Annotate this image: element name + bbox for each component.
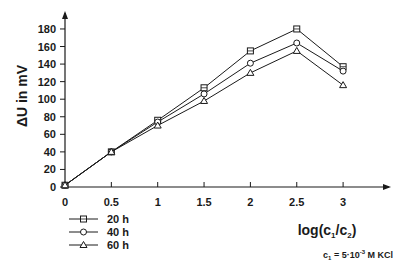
- x-tick-label: 1.5: [196, 196, 211, 208]
- y-tick-label: 180: [38, 23, 56, 35]
- x-tick-label: 2.5: [289, 196, 304, 208]
- y-tick-label: 160: [38, 41, 56, 53]
- legend-label: 60 h: [107, 239, 129, 251]
- triangle-marker-icon: [293, 47, 300, 53]
- y-tick-label: 20: [44, 163, 56, 175]
- legend-item: 40 h: [69, 226, 129, 238]
- y-tick-label: 140: [38, 58, 56, 70]
- circle-marker-icon: [294, 40, 300, 46]
- y-tick-label: 0: [50, 181, 56, 193]
- legend: 20 h40 h60 h: [69, 213, 129, 251]
- x-axis-title: log(c1/c2): [298, 222, 357, 240]
- triangle-marker-icon: [247, 69, 254, 75]
- legend-item: 60 h: [69, 239, 129, 251]
- series-line: [65, 43, 343, 185]
- y-tick-label: 100: [38, 93, 56, 105]
- series-60h: [62, 47, 347, 187]
- y-axis-title: ΔU in mV: [14, 64, 30, 127]
- x-tick-label: 0: [62, 196, 68, 208]
- series-20h: [62, 26, 346, 188]
- legend-label: 40 h: [107, 226, 129, 238]
- x-tick-label: 1: [155, 196, 161, 208]
- concentration-note: c1 = 5·10-3 M KCl: [323, 249, 393, 261]
- x-tick-label: 3: [340, 196, 346, 208]
- y-tick-label: 80: [44, 111, 56, 123]
- series-line: [65, 29, 343, 185]
- x-tick-label: 0.5: [104, 196, 119, 208]
- data-series: [62, 26, 347, 188]
- axes: 02040608010012014016018000.511.522.53: [38, 11, 391, 208]
- chart: 02040608010012014016018000.511.522.53 20…: [0, 0, 403, 273]
- legend-label: 20 h: [107, 213, 129, 225]
- y-tick-label: 120: [38, 76, 56, 88]
- legend-item: 20 h: [69, 213, 129, 225]
- circle-marker-icon: [201, 91, 207, 97]
- x-axis-arrow-icon: [383, 184, 391, 190]
- circle-marker-icon: [247, 60, 253, 66]
- circle-marker-icon: [340, 68, 346, 74]
- series-line: [65, 51, 343, 185]
- triangle-marker-icon: [201, 97, 208, 103]
- y-tick-label: 40: [44, 146, 56, 158]
- triangle-marker-icon: [340, 82, 347, 88]
- y-tick-label: 60: [44, 128, 56, 140]
- series-40h: [62, 40, 346, 188]
- x-tick-label: 2: [247, 196, 253, 208]
- y-axis-arrow-icon: [62, 11, 68, 19]
- circle-legend-icon: [81, 229, 87, 235]
